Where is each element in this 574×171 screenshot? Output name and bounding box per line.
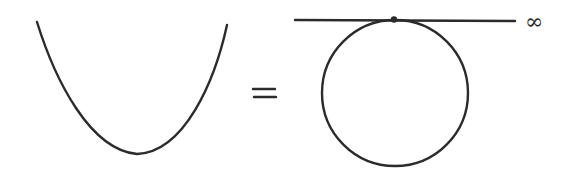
- parabola-curve: [37, 22, 227, 154]
- infinity-label: ∞: [525, 9, 543, 34]
- tangent-point-dot: [391, 16, 397, 22]
- circle-shape: [322, 20, 468, 166]
- equals-sign: [253, 89, 276, 97]
- diagram-canvas: ∞: [0, 0, 574, 171]
